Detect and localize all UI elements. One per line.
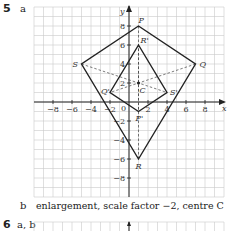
question-6-grid-partial	[0, 0, 231, 231]
